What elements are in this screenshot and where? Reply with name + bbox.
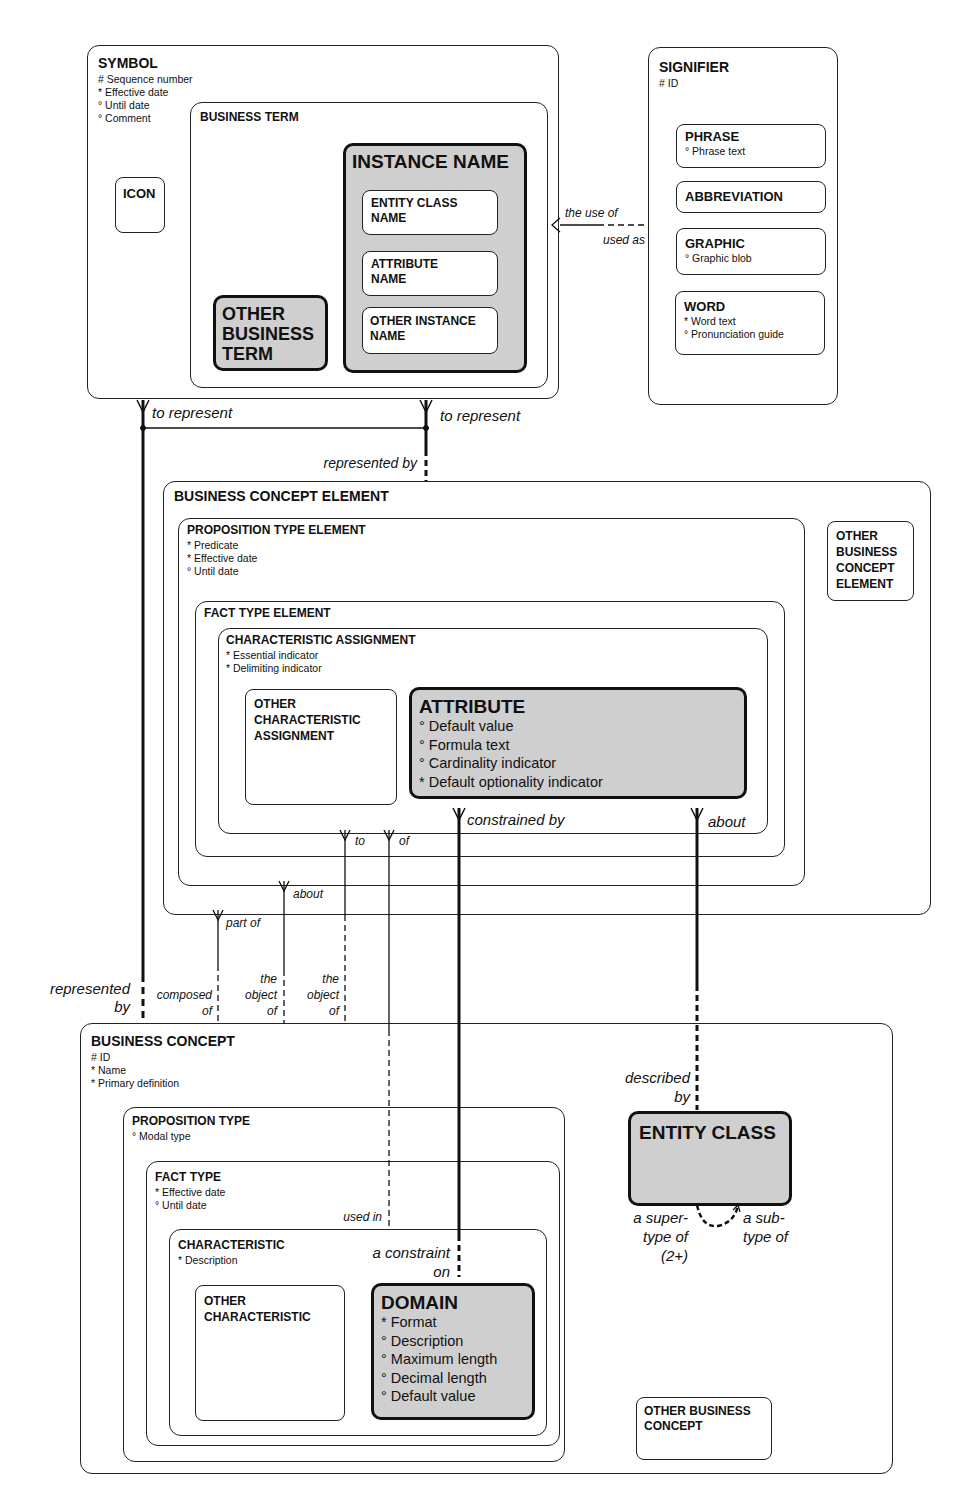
label-represented-by-2: represented by	[20, 980, 130, 1016]
attribute: ° Decimal length	[381, 1369, 497, 1388]
attribute-list: * Essential indicator * Delimiting indic…	[226, 649, 322, 675]
label-used-as: used as	[580, 232, 645, 248]
attribute: ° Until date	[98, 99, 193, 112]
attribute: * Format	[381, 1313, 497, 1332]
entity-domain: DOMAIN * Format ° Description ° Maximum …	[371, 1283, 535, 1420]
attribute-list: * Format ° Description ° Maximum length …	[381, 1313, 497, 1406]
entity-attribute: ATTRIBUTE ° Default value ° Formula text…	[409, 687, 747, 799]
attribute-list: ° Phrase text	[685, 145, 745, 158]
attribute: # Sequence number	[98, 73, 193, 86]
entity-title: OTHER CHARACTERISTIC	[204, 1293, 311, 1325]
label-to: to	[355, 833, 365, 849]
entity-entity-class-name: ENTITY CLASS NAME	[362, 190, 498, 235]
label-a-supertype-of: a super- type of (2+)	[610, 1208, 688, 1265]
entity-title: OTHER BUSINESS CONCEPT	[644, 1404, 751, 1434]
attribute-list: ° Graphic blob	[685, 252, 752, 265]
entity-title: ICON	[123, 186, 156, 201]
entity-proposition-type-element: PROPOSITION TYPE ELEMENT * Predicate * E…	[178, 518, 805, 886]
entity-signifier: SIGNIFIER # ID PHRASE ° Phrase text ABBR…	[648, 47, 838, 405]
label-composed-of: composed of	[140, 987, 212, 1019]
entity-title: ENTITY CLASS	[639, 1122, 776, 1144]
entity-title: FACT TYPE ELEMENT	[204, 606, 331, 621]
entity-title: ENTITY CLASS NAME	[371, 196, 457, 226]
entity-graphic: GRAPHIC ° Graphic blob	[676, 228, 826, 275]
entity-title: PROPOSITION TYPE	[132, 1114, 250, 1129]
label-represented-by-1: represented by	[280, 455, 417, 471]
entity-title: OTHER BUSINESS TERM	[222, 304, 314, 364]
attribute: ° Graphic blob	[685, 252, 752, 265]
attribute: * Effective date	[155, 1186, 225, 1199]
entity-other-business-term: OTHER BUSINESS TERM	[213, 295, 328, 371]
entity-entity-class: ENTITY CLASS	[628, 1111, 792, 1206]
entity-business-concept-element: BUSINESS CONCEPT ELEMENT OTHER BUSINESS …	[163, 481, 931, 915]
entity-title: FACT TYPE	[155, 1170, 221, 1185]
attribute: ° Description	[381, 1332, 497, 1351]
entity-business-term: BUSINESS TERM OTHER BUSINESS TERM INSTAN…	[190, 102, 548, 388]
entity-other-characteristic: OTHER CHARACTERISTIC	[195, 1285, 345, 1421]
entity-instance-name: INSTANCE NAME ENTITY CLASS NAME ATTRIBUT…	[343, 143, 527, 373]
attribute: * Effective date	[187, 552, 257, 565]
attribute-list: ° Default value ° Formula text ° Cardina…	[419, 717, 603, 791]
attribute: ° Until date	[155, 1199, 225, 1212]
entity-characteristic-assignment: CHARACTERISTIC ASSIGNMENT * Essential in…	[218, 628, 768, 834]
label-used-in: used in	[320, 1209, 382, 1225]
attribute: * Delimiting indicator	[226, 662, 322, 675]
entity-title: OTHER CHARACTERISTIC ASSIGNMENT	[254, 696, 361, 744]
attribute-list: * Word text ° Pronunciation guide	[684, 315, 784, 341]
entity-symbol: SYMBOL # Sequence number * Effective dat…	[87, 45, 559, 399]
entity-title: BUSINESS CONCEPT ELEMENT	[174, 489, 389, 504]
attribute-list: # Sequence number * Effective date ° Unt…	[98, 73, 193, 125]
attribute: # ID	[659, 77, 678, 90]
crows-foot-icon	[420, 400, 432, 412]
label-a-constraint-on: a constraint on	[340, 1243, 450, 1281]
entity-attribute-name: ATTRIBUTE NAME	[362, 251, 498, 296]
attribute-list: * Effective date ° Until date	[155, 1186, 225, 1212]
label-to-represent-2: to represent	[440, 408, 520, 424]
crows-foot-icon	[137, 400, 149, 412]
entity-title: SIGNIFIER	[659, 60, 729, 75]
entity-title: PROPOSITION TYPE ELEMENT	[187, 523, 366, 538]
attribute: ° Pronunciation guide	[684, 328, 784, 341]
label-of: of	[399, 833, 409, 849]
label-a-subtype-of: a sub- type of	[743, 1208, 788, 1246]
attribute-list: * Predicate * Effective date ° Until dat…	[187, 539, 257, 578]
entity-title: CHARACTERISTIC ASSIGNMENT	[226, 633, 416, 648]
label-part-of: part of	[226, 915, 260, 931]
attribute: ° Formula text	[419, 736, 603, 755]
attribute: * Description	[178, 1254, 238, 1267]
entity-title: CHARACTERISTIC	[178, 1238, 285, 1253]
attribute: * Essential indicator	[226, 649, 322, 662]
entity-title: INSTANCE NAME	[352, 151, 509, 173]
attribute: ° Modal type	[132, 1130, 190, 1143]
entity-title: BUSINESS TERM	[200, 110, 299, 125]
entity-other-business-concept-element: OTHER BUSINESS CONCEPT ELEMENT	[827, 521, 914, 601]
entity-fact-type: FACT TYPE * Effective date ° Until date …	[146, 1161, 560, 1446]
attribute-list: * Description	[178, 1254, 238, 1267]
attribute-list: # ID * Name * Primary definition	[91, 1051, 179, 1090]
entity-icon: ICON	[115, 177, 165, 233]
entity-other-business-concept: OTHER BUSINESS CONCEPT	[636, 1397, 772, 1460]
entity-title: WORD	[684, 299, 725, 314]
attribute: ° Default value	[419, 717, 603, 736]
attribute: * Predicate	[187, 539, 257, 552]
label-constrained-by: constrained by	[467, 812, 565, 828]
attribute: ° Cardinality indicator	[419, 754, 603, 773]
attribute: * Default optionality indicator	[419, 773, 603, 792]
attribute: ° Until date	[187, 565, 257, 578]
attribute: ° Comment	[98, 112, 193, 125]
attribute: * Primary definition	[91, 1077, 179, 1090]
attribute: * Word text	[684, 315, 784, 328]
entity-title: ABBREVIATION	[685, 189, 783, 204]
label-about-1: about	[708, 814, 746, 830]
entity-title: GRAPHIC	[685, 236, 745, 251]
attribute-list: # ID	[659, 77, 678, 90]
attribute: ° Phrase text	[685, 145, 745, 158]
label-to-represent-1: to represent	[152, 405, 232, 421]
entity-word: WORD * Word text ° Pronunciation guide	[675, 291, 825, 355]
entity-title: OTHER BUSINESS CONCEPT ELEMENT	[836, 528, 897, 592]
attribute: # ID	[91, 1051, 179, 1064]
entity-title: DOMAIN	[381, 1292, 458, 1314]
label-the-use-of: the use of	[565, 205, 618, 221]
attribute: * Name	[91, 1064, 179, 1077]
attribute: * Effective date	[98, 86, 193, 99]
